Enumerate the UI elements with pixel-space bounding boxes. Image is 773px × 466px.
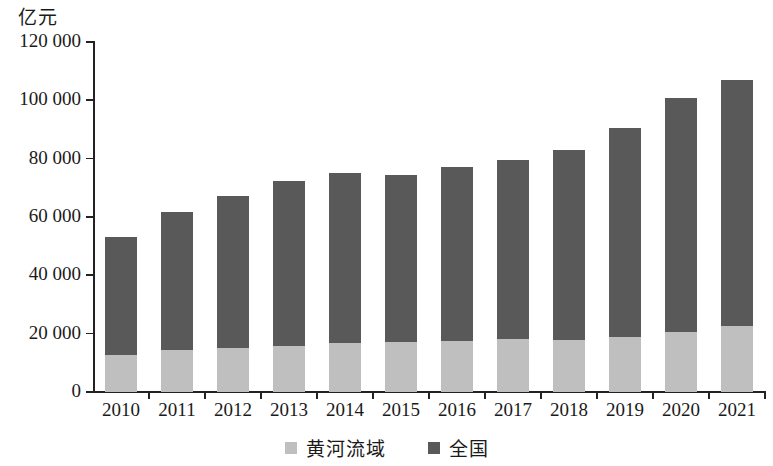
bar-segment-quanguo: [721, 80, 753, 326]
bar-segment-quanguo: [385, 175, 417, 342]
x-axis-label: 2011: [149, 399, 205, 421]
bar-stack: [273, 181, 305, 392]
x-axis-tick: [652, 392, 654, 399]
x-axis-label: 2017: [485, 399, 541, 421]
bar-segment-huanghe: [441, 341, 473, 392]
bar-stack: [329, 173, 361, 392]
bar-segment-huanghe: [497, 339, 529, 392]
bar-segment-huanghe: [217, 348, 249, 392]
bar-segment-huanghe: [553, 340, 585, 392]
bar-stack: [385, 175, 417, 392]
bar-stack: [105, 237, 137, 392]
x-axis-tick: [764, 392, 766, 399]
x-axis-label: 2019: [597, 399, 653, 421]
x-axis-label: 2018: [541, 399, 597, 421]
x-axis-label: 2015: [373, 399, 429, 421]
x-axis-tick: [204, 392, 206, 399]
bar-segment-quanguo: [273, 181, 305, 346]
x-axis-label: 2014: [317, 399, 373, 421]
bar-stack: [553, 150, 585, 392]
bar-stack: [441, 167, 473, 392]
y-tick-label: 60 000: [29, 205, 81, 227]
x-axis-tick: [260, 392, 262, 399]
x-axis-tick: [596, 392, 598, 399]
legend-label-huanghe: 黄河流域: [306, 434, 386, 461]
bar-stack: [217, 196, 249, 392]
y-tick-mark: [86, 99, 93, 101]
legend-item-quanguo: 全国: [428, 434, 489, 461]
x-axis-label: 2016: [429, 399, 485, 421]
x-axis-tick: [484, 392, 486, 399]
x-axis-label: 2013: [261, 399, 317, 421]
y-tick-label: 20 000: [29, 322, 81, 344]
y-tick-mark: [86, 216, 93, 218]
x-axis-tick: [428, 392, 430, 399]
legend-swatch-icon-quanguo: [428, 442, 440, 454]
y-tick-label: 40 000: [29, 263, 81, 285]
legend-item-huanghe: 黄河流域: [285, 434, 386, 461]
legend-label-quanguo: 全国: [449, 434, 489, 461]
bar-segment-huanghe: [609, 337, 641, 392]
plot-area: 020 00040 00060 00080 000100 000120 000: [93, 42, 765, 392]
bar-stack: [609, 128, 641, 392]
y-tick-mark: [86, 333, 93, 335]
x-axis-label: 2020: [653, 399, 709, 421]
x-axis-tick: [148, 392, 150, 399]
bar-segment-quanguo: [609, 128, 641, 337]
x-axis-tick: [540, 392, 542, 399]
y-tick-mark: [86, 158, 93, 160]
y-tick-label: 80 000: [29, 147, 81, 169]
bar-segment-huanghe: [385, 342, 417, 392]
bar-segment-huanghe: [721, 326, 753, 392]
x-axis-label: 2021: [709, 399, 765, 421]
bar-stack: [665, 98, 697, 392]
y-tick-mark: [86, 41, 93, 43]
x-axis-label: 2010: [93, 399, 149, 421]
bar-segment-quanguo: [217, 196, 249, 348]
legend-swatch-icon-huanghe: [285, 442, 297, 454]
bar-segment-huanghe: [665, 332, 697, 392]
y-tick-label: 100 000: [19, 88, 81, 110]
bar-segment-quanguo: [161, 212, 193, 350]
x-axis-tick: [708, 392, 710, 399]
bar-segment-huanghe: [105, 355, 137, 392]
bar-segment-quanguo: [105, 237, 137, 355]
y-tick-label: 120 000: [19, 30, 81, 52]
x-axis-tick: [316, 392, 318, 399]
bar-stack: [721, 80, 753, 392]
chart-legend: 黄河流域 全国: [0, 434, 773, 461]
bar-segment-quanguo: [553, 150, 585, 340]
bar-segment-quanguo: [497, 160, 529, 340]
y-tick-mark: [86, 391, 93, 393]
stacked-bar-chart: 亿元 020 00040 00060 00080 000100 000120 0…: [0, 0, 773, 466]
x-axis-label: 2012: [205, 399, 261, 421]
bar-stack: [497, 160, 529, 392]
bar-stack: [161, 212, 193, 392]
bar-segment-quanguo: [329, 173, 361, 343]
bar-segment-huanghe: [329, 343, 361, 392]
y-axis-unit-label: 亿元: [18, 2, 58, 29]
bar-segment-quanguo: [441, 167, 473, 341]
bar-segment-huanghe: [273, 346, 305, 392]
y-tick-label: 0: [72, 380, 82, 402]
bar-segment-quanguo: [665, 98, 697, 332]
x-axis-tick: [372, 392, 374, 399]
bar-segment-huanghe: [161, 350, 193, 392]
y-tick-mark: [86, 274, 93, 276]
